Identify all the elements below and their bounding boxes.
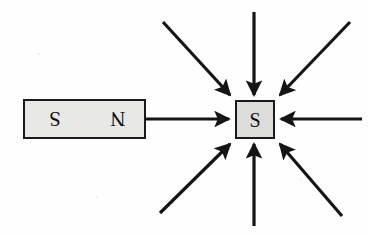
diagram-canvas: S N S <box>0 0 368 235</box>
bar-magnet-body <box>24 100 145 138</box>
bar-magnet-north-pole-label: N <box>110 107 125 131</box>
arrow-northwest <box>163 22 230 95</box>
arrow-northeast <box>280 22 350 95</box>
field-diagram: S N S <box>0 0 368 235</box>
bar-magnet: S N <box>24 100 145 138</box>
target-square: S <box>236 101 274 138</box>
arrow-southwest <box>160 144 230 213</box>
target-square-pole-label: S <box>249 109 260 131</box>
bar-magnet-south-pole-label: S <box>49 107 61 131</box>
arrow-southeast <box>280 144 342 216</box>
